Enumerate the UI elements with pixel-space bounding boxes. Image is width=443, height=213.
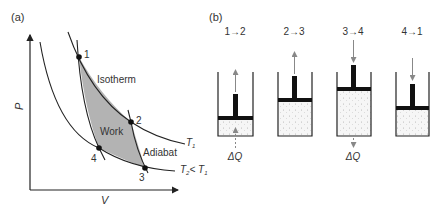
piston-rod xyxy=(233,94,238,116)
piston xyxy=(337,87,371,91)
p-axis-label: P xyxy=(13,102,25,110)
heat-label: ΔQ xyxy=(227,151,243,162)
step-3-4: 3→4 ΔQ xyxy=(337,26,371,162)
pv-diagram: (a) P V 1 2 3 4 Isotherm Work Adiabat T1… xyxy=(11,11,208,206)
v-axis-label: V xyxy=(101,194,110,206)
point-4-label: 4 xyxy=(91,153,97,164)
step-label: 4→1 xyxy=(401,26,423,37)
step-2-3: 2→3 xyxy=(278,26,312,136)
piston xyxy=(396,106,429,110)
piston xyxy=(278,98,312,102)
step-label: 2→3 xyxy=(283,26,305,37)
point-3 xyxy=(142,165,148,171)
piston-rod xyxy=(292,76,297,98)
piston-sequence: (b) 1→2 ΔQ 2→3 3→4 xyxy=(209,11,429,162)
point-4 xyxy=(96,145,102,151)
work-label: Work xyxy=(100,126,124,137)
adiabat-label: Adiabat xyxy=(143,147,177,158)
heat-label: ΔQ xyxy=(345,151,361,162)
panel-b-label: (b) xyxy=(209,11,222,23)
step-1-2: 1→2 ΔQ xyxy=(218,26,253,162)
step-label: 1→2 xyxy=(224,26,246,37)
step-4-1: 4→1 xyxy=(396,26,429,136)
piston xyxy=(218,116,253,120)
panel-a-label: (a) xyxy=(11,11,24,23)
carnot-cycle-figure: (a) P V 1 2 3 4 Isotherm Work Adiabat T1… xyxy=(0,0,443,213)
piston-rod xyxy=(410,84,415,106)
t1-label: T1 xyxy=(186,137,195,149)
piston-rod xyxy=(351,65,356,87)
point-3-label: 3 xyxy=(139,172,145,183)
step-label: 3→4 xyxy=(342,26,364,37)
point-2 xyxy=(128,119,134,125)
point-1 xyxy=(76,54,82,60)
point-2-label: 2 xyxy=(136,115,142,126)
t2-label: T2< T1 xyxy=(180,164,208,176)
point-1-label: 1 xyxy=(84,49,90,60)
isotherm-label: Isotherm xyxy=(97,74,136,85)
